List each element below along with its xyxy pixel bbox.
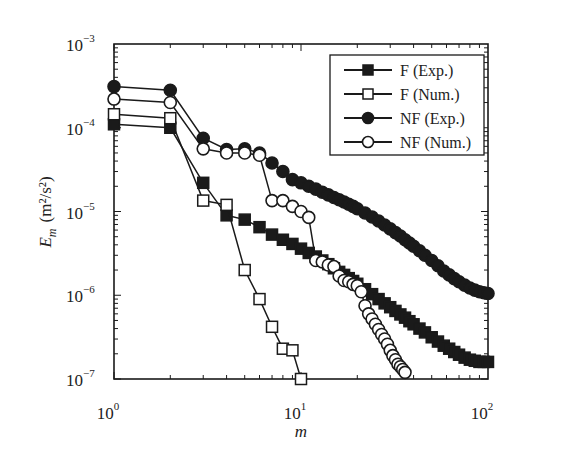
circle-marker — [108, 81, 120, 93]
y-axis-units: (m²/s²) — [36, 176, 55, 222]
square-marker — [483, 356, 494, 367]
square-marker — [221, 199, 232, 210]
circle-marker — [303, 211, 315, 223]
circle-marker — [355, 286, 367, 298]
chart: 10010110210−310−410−510−610−7 m Em(m²/s²… — [0, 0, 576, 465]
circle-marker — [108, 93, 120, 105]
circle-marker — [239, 147, 251, 159]
square-marker — [267, 321, 278, 332]
circle-marker — [266, 157, 278, 169]
y-axis-subscript: m — [45, 228, 59, 237]
square-marker — [109, 109, 120, 120]
square-marker — [267, 229, 278, 240]
circle-marker — [399, 366, 411, 378]
square-marker — [254, 222, 265, 233]
circle-marker — [363, 137, 374, 148]
legend-label: NF (Num.) — [400, 134, 471, 152]
circle-marker — [482, 287, 494, 299]
square-marker — [198, 195, 209, 206]
circle-marker — [363, 113, 374, 124]
legend: F (Exp.)F (Num.)NF (Exp.)NF (Num.) — [330, 55, 484, 155]
square-marker — [239, 214, 250, 225]
circle-marker — [164, 84, 176, 96]
square-marker — [287, 345, 298, 356]
square-marker — [254, 294, 265, 305]
square-marker — [239, 265, 250, 276]
circle-marker — [164, 97, 176, 109]
square-marker — [296, 374, 307, 385]
square-marker — [198, 177, 209, 188]
circle-marker — [221, 147, 233, 159]
circle-marker — [197, 143, 209, 155]
legend-label: NF (Exp.) — [400, 110, 465, 128]
square-marker — [363, 65, 373, 75]
y-axis-symbol: E — [36, 237, 55, 249]
background — [0, 0, 576, 465]
square-marker — [363, 89, 373, 99]
x-axis-label: m — [295, 422, 307, 441]
square-marker — [165, 113, 176, 124]
legend-label: F (Exp.) — [400, 62, 453, 80]
legend-label: F (Num.) — [400, 86, 460, 104]
circle-marker — [254, 149, 266, 161]
